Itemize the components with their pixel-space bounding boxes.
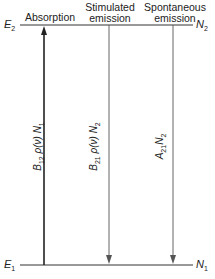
absorption-arrowhead-icon	[41, 26, 47, 35]
stimulated-rate-label: B21 ρ(ν) N2	[88, 107, 101, 187]
stimulated-arrowhead-icon	[106, 255, 112, 264]
absorption-rate-label: B12 ρ(ν) N1	[32, 107, 45, 187]
lower-population-label: N1	[196, 258, 208, 272]
lower-energy-label: E1	[4, 258, 15, 272]
spontaneous-arrowhead-icon	[170, 255, 176, 264]
absorption-title: Absorption	[22, 12, 78, 23]
stimulated-title: Stimulatedemission	[82, 2, 138, 24]
spontaneous-rate-label: A21N2	[154, 122, 167, 172]
spontaneous-title: Spontaneousemission	[140, 2, 210, 24]
upper-energy-label: E2	[4, 18, 15, 32]
